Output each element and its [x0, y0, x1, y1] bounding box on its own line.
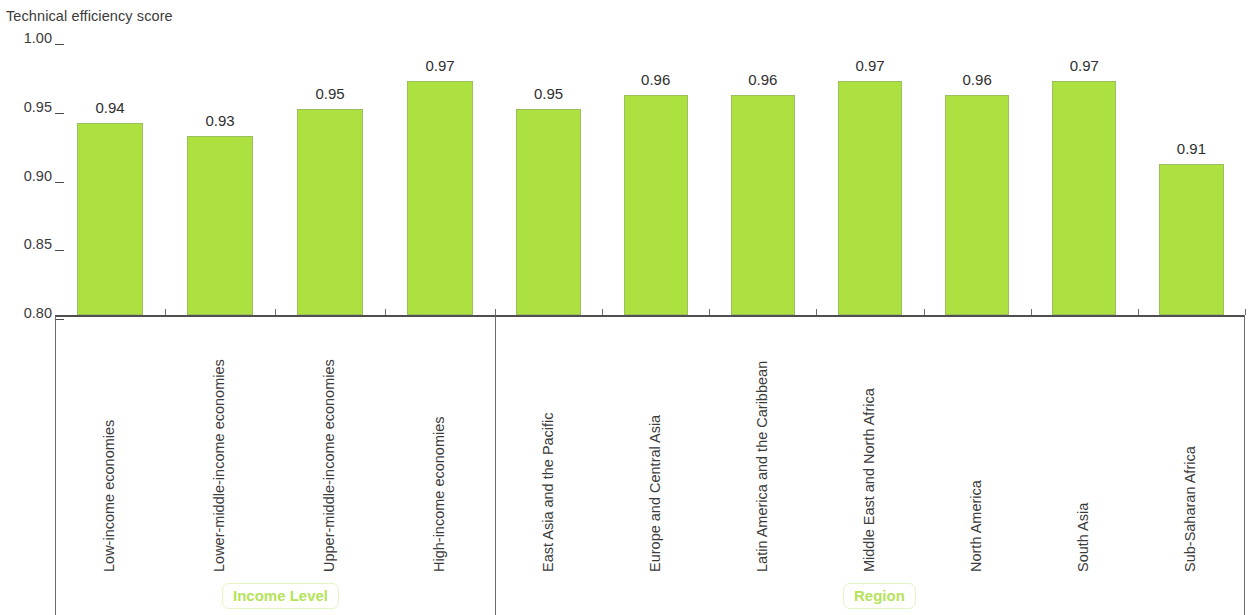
bar-value-label: 0.91: [1151, 140, 1231, 157]
bar-value-label: 0.97: [830, 57, 910, 74]
x-axis-category-label: Low-income economies: [101, 420, 117, 572]
plot-area: 0.940.930.950.970.950.960.960.970.960.97…: [55, 40, 1245, 315]
chart-title: Technical efficiency score: [6, 8, 173, 24]
bar-value-label: 0.94: [70, 99, 150, 116]
y-axis-tick-label: 0.85: [0, 236, 52, 252]
x-axis-category-label: South Asia: [1075, 503, 1091, 572]
x-axis-category-label: Lower-middle-income economies: [211, 359, 227, 572]
bar: [407, 81, 473, 315]
x-axis-minor-tick: [275, 309, 276, 315]
category-label-slot: High-income economies: [447, 322, 465, 572]
x-axis-minor-tick: [495, 309, 496, 315]
frame-left-border: [55, 316, 56, 615]
x-axis-minor-tick: [924, 309, 925, 315]
bar-chart: Technical efficiency score 1.000.950.900…: [0, 0, 1260, 615]
x-axis-category-label: East Asia and the Pacific: [540, 412, 556, 572]
category-label-slot: Lower-middle-income economies: [227, 322, 245, 572]
bar: [297, 109, 363, 315]
x-axis-category-label: High-income economies: [431, 416, 447, 572]
x-axis-category-label: Sub-Saharan Africa: [1182, 446, 1198, 572]
category-label-slot: Europe and Central Asia: [663, 322, 681, 572]
category-label-slot: Sub-Saharan Africa: [1198, 322, 1216, 572]
bar-value-label: 0.96: [723, 71, 803, 88]
x-axis-minor-tick: [1031, 309, 1032, 315]
bar-value-label: 0.96: [616, 71, 696, 88]
y-axis-tick-label: 0.90: [0, 168, 52, 184]
bar: [731, 95, 795, 315]
x-axis-minor-tick: [602, 309, 603, 315]
group-label-region: Region: [843, 583, 916, 609]
group-divider-line: [495, 316, 496, 615]
category-label-slot: East Asia and the Pacific: [556, 322, 574, 572]
category-label-slot: Low-income economies: [117, 322, 135, 572]
x-axis-minor-tick: [1138, 309, 1139, 315]
x-axis-minor-tick: [165, 309, 166, 315]
group-label-income-level: Income Level: [222, 583, 339, 609]
bar-value-label: 0.97: [1044, 57, 1124, 74]
bar-value-label: 0.95: [509, 85, 589, 102]
bar: [838, 81, 902, 315]
x-axis-minor-tick: [816, 309, 817, 315]
category-label-slot: Latin America and the Caribbean: [770, 322, 788, 572]
bar: [1052, 81, 1116, 315]
frame-right-border: [1244, 316, 1245, 615]
bar: [1159, 164, 1223, 315]
bar-value-label: 0.97: [400, 57, 480, 74]
bar-value-label: 0.95: [290, 85, 370, 102]
bar: [77, 123, 143, 316]
x-axis-category-label: Upper-middle-income economies: [321, 359, 337, 572]
category-label-slot: North America: [984, 322, 1002, 572]
y-axis-tick-label: 1.00: [0, 30, 52, 46]
category-label-slot: Upper-middle-income economies: [337, 322, 355, 572]
y-axis-tick-mark: [55, 319, 64, 320]
y-axis-tick-label: 0.80: [0, 305, 52, 321]
x-axis-category-label: Latin America and the Caribbean: [754, 361, 770, 572]
category-label-slot: Middle East and North Africa: [877, 322, 895, 572]
bar: [187, 136, 253, 315]
bar: [945, 95, 1009, 315]
bar-value-label: 0.93: [180, 112, 260, 129]
x-axis-category-label: Europe and Central Asia: [647, 415, 663, 572]
x-axis-minor-tick: [1245, 309, 1246, 315]
bar: [624, 95, 688, 315]
x-axis-category-label: Middle East and North Africa: [861, 388, 877, 572]
y-axis-tick-label: 0.95: [0, 99, 52, 115]
x-axis-line: [55, 315, 1245, 317]
x-axis-category-label: North America: [968, 480, 984, 572]
x-axis-minor-tick: [709, 309, 710, 315]
bar-value-label: 0.96: [937, 71, 1017, 88]
x-axis-minor-tick: [385, 309, 386, 315]
bar: [516, 109, 580, 315]
category-label-slot: South Asia: [1091, 322, 1109, 572]
